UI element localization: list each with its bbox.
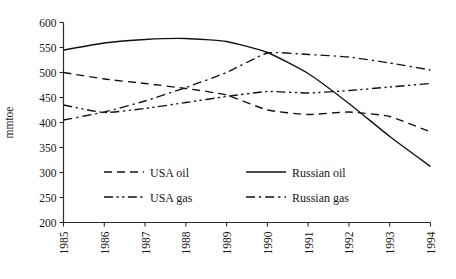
legend-label: USA gas — [150, 191, 193, 205]
x-tick-label: 1994 — [425, 231, 437, 254]
x-tick-label: 1990 — [262, 231, 274, 254]
y-tick-label: 350 — [39, 142, 57, 154]
legend-entry-russian-gas: Russian gas — [246, 191, 349, 205]
y-axis-title: mmtoe — [3, 107, 15, 139]
y-tick-label: 500 — [39, 67, 57, 79]
x-tick-label: 1988 — [180, 231, 192, 254]
line-chart: 2002503003504004505005506001985198619871… — [0, 0, 456, 279]
series-line-russian-gas — [64, 53, 431, 120]
y-tick-label: 550 — [39, 42, 57, 54]
x-tick-label: 1993 — [384, 231, 396, 254]
y-tick-label: 300 — [39, 167, 57, 179]
y-tick-label: 400 — [39, 117, 57, 129]
legend-entry-usa-oil: USA oil — [104, 166, 190, 180]
legend-entry-russian-oil: Russian oil — [246, 166, 346, 180]
chart-canvas: 2002503003504004505005506001985198619871… — [0, 0, 456, 279]
legend-label: Russian gas — [292, 191, 349, 205]
y-tick-label: 600 — [39, 17, 57, 29]
x-tick-label: 1991 — [303, 231, 315, 254]
legend-entry-usa-gas: USA gas — [104, 191, 193, 205]
series-line-usa-gas — [64, 84, 431, 113]
x-tick-label: 1987 — [140, 231, 152, 254]
x-tick-label: 1985 — [58, 231, 70, 254]
x-tick-label: 1992 — [343, 231, 355, 254]
y-tick-label: 250 — [39, 192, 57, 204]
x-tick-label: 1986 — [99, 231, 111, 254]
y-tick-label: 450 — [39, 92, 57, 104]
x-tick-label: 1989 — [221, 231, 233, 254]
legend-label: USA oil — [150, 166, 190, 180]
y-tick-label: 200 — [39, 217, 57, 229]
legend-label: Russian oil — [292, 166, 346, 180]
series-line-usa-oil — [64, 73, 431, 133]
